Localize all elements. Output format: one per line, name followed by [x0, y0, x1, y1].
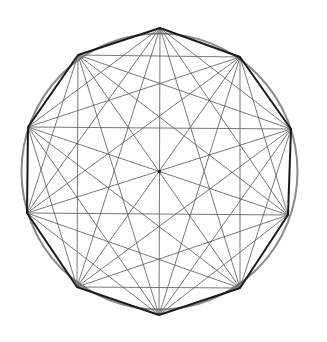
diagonal-line: [78, 55, 240, 57]
diagram-canvas: [0, 0, 327, 342]
diagonal-line: [28, 127, 240, 288]
diagonal-line: [27, 213, 240, 288]
diagonal-line: [159, 129, 291, 315]
diagonal-line: [27, 213, 159, 315]
diagonal-line: [159, 57, 240, 315]
diagonal-line: [27, 213, 288, 215]
diagonal-line: [28, 127, 288, 215]
diagonal-line: [28, 57, 240, 127]
diagonal-line: [78, 55, 159, 315]
center-dot: [158, 170, 161, 173]
diagonal-line: [78, 55, 291, 129]
diagonal-line: [159, 215, 288, 315]
diagonal-line: [160, 28, 291, 129]
diagonal-line: [77, 287, 240, 288]
diagonal-line: [27, 55, 78, 213]
decagon-diagram: [0, 0, 327, 342]
center-point: [158, 170, 161, 173]
